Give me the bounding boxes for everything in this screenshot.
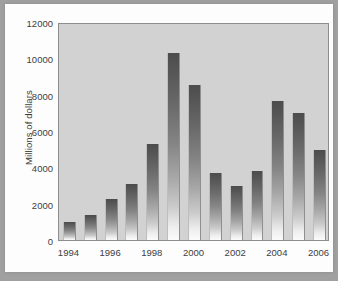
bar [84,215,97,240]
y-tick-label: 8000 [17,90,53,101]
x-tick-label: 2004 [266,247,287,258]
bar [209,173,222,240]
figure: Millions of dollars 02000400060008000100… [0,0,338,281]
chart-card: Millions of dollars 02000400060008000100… [5,4,333,272]
x-tick-label: 2000 [183,247,204,258]
y-axis-tick-labels: 020004000600080001000012000 [17,18,53,242]
x-tick-label: 2006 [308,247,329,258]
y-tick-label: 0 [17,236,53,247]
bar-series [59,24,328,240]
bar [230,186,243,241]
bar [313,150,326,240]
y-tick-label: 2000 [17,199,53,210]
x-tick-label: 1996 [100,247,121,258]
y-tick-label: 12000 [17,18,53,29]
bar [271,101,284,240]
bar [292,113,305,240]
y-tick-label: 4000 [17,163,53,174]
plot-area [58,23,329,241]
bar [146,144,159,240]
bar [105,199,118,240]
x-tick-label: 2002 [225,247,246,258]
bar [63,222,76,240]
bar [125,184,138,240]
y-tick-label: 10000 [17,54,53,65]
bar [251,171,264,240]
x-tick-label: 1994 [58,247,79,258]
bar [167,53,180,240]
bar [188,85,201,240]
y-tick-label: 6000 [17,127,53,138]
x-axis-tick-labels: 1994199619982000200220042006 [58,247,329,263]
x-tick-label: 1998 [141,247,162,258]
